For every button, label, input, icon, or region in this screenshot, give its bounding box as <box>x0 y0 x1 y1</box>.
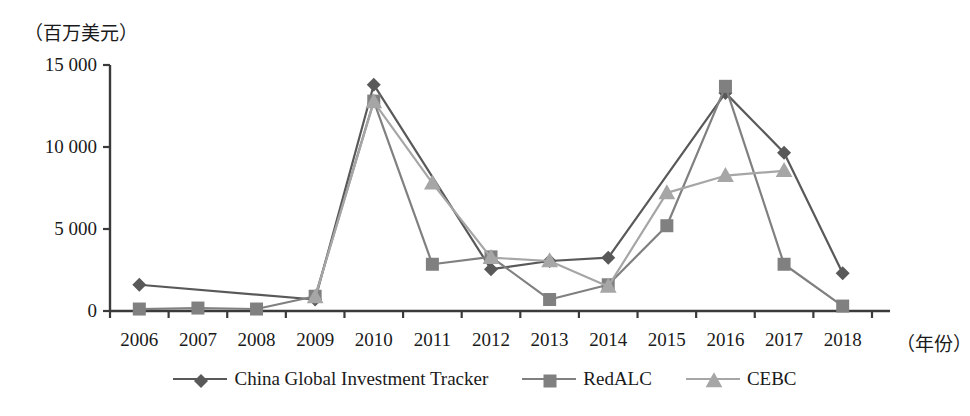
data-point <box>836 266 850 280</box>
data-point <box>601 251 615 265</box>
series-3 <box>307 93 793 303</box>
x-axis-tick-label: 2009 <box>296 329 334 351</box>
data-point <box>367 78 381 92</box>
x-axis-tick-label: 2010 <box>355 329 393 351</box>
data-point <box>133 303 146 316</box>
legend-marker-shape <box>706 372 723 387</box>
data-point <box>426 258 439 271</box>
data-point <box>484 262 498 276</box>
legend-marker <box>192 372 210 390</box>
legend-item-label: CEBC <box>747 368 797 390</box>
y-axis-tick-label: 5 000 <box>0 218 97 240</box>
data-point <box>543 293 556 306</box>
legend-item[interactable]: RedALC <box>522 368 652 390</box>
x-axis-tick-label: 2016 <box>706 329 744 351</box>
legend-item[interactable]: CEBC <box>686 368 797 390</box>
legend-item-label: RedALC <box>583 368 652 390</box>
y-axis-tick-label: 10 000 <box>0 136 97 158</box>
x-axis-tick-label: 2011 <box>414 329 451 351</box>
x-axis-unit-label: （年份） <box>896 329 970 356</box>
data-point <box>250 303 263 316</box>
data-point <box>719 80 732 93</box>
series-2 <box>133 80 849 316</box>
x-axis-tick-label: 2017 <box>765 329 803 351</box>
data-point <box>660 219 673 232</box>
y-axis-tick-label: 15 000 <box>0 54 97 76</box>
legend-marker <box>705 372 723 390</box>
data-point <box>778 258 791 271</box>
x-axis-tick-label: 2015 <box>648 329 686 351</box>
data-point <box>836 300 849 313</box>
chart-figure: （百万美元） 05 00010 00015 000 20062007200820… <box>0 0 970 416</box>
legend-item-label: China Global Investment Tracker <box>234 368 488 390</box>
x-axis-tick-label: 2008 <box>238 329 276 351</box>
x-axis-tick-label: 2006 <box>120 329 158 351</box>
legend-marker <box>541 372 559 390</box>
legend-item[interactable]: China Global Investment Tracker <box>173 368 488 390</box>
y-axis-unit-label: （百万美元） <box>24 18 138 45</box>
y-axis-tick-label: 0 <box>0 300 97 322</box>
legend-marker-shape <box>544 375 557 388</box>
x-axis-tick-label: 2013 <box>531 329 569 351</box>
x-axis-tick-label: 2012 <box>472 329 510 351</box>
triangle-marker-icon <box>686 370 740 388</box>
diamond-marker-icon <box>173 370 227 388</box>
chart-plot-area <box>0 0 970 416</box>
x-axis-tick-label: 2018 <box>824 329 862 351</box>
series-1 <box>132 78 849 307</box>
data-point <box>191 302 204 315</box>
chart-legend: China Global Investment TrackerRedALCCEB… <box>0 368 970 390</box>
x-axis-tick-label: 2014 <box>589 329 627 351</box>
legend-marker-shape <box>194 374 208 388</box>
data-point <box>132 278 146 292</box>
x-axis-tick-label: 2007 <box>179 329 217 351</box>
square-marker-icon <box>522 370 576 388</box>
